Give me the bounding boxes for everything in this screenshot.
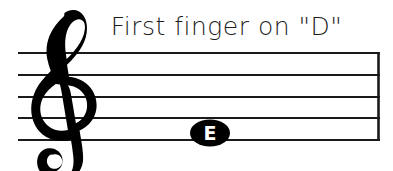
music-notation-figure: First finger on "D" E [0,0,393,171]
treble-clef-icon [31,10,96,171]
notehead-letter: E [204,122,217,144]
notehead-e: E [190,120,230,147]
staff-and-notation: E [0,0,393,171]
